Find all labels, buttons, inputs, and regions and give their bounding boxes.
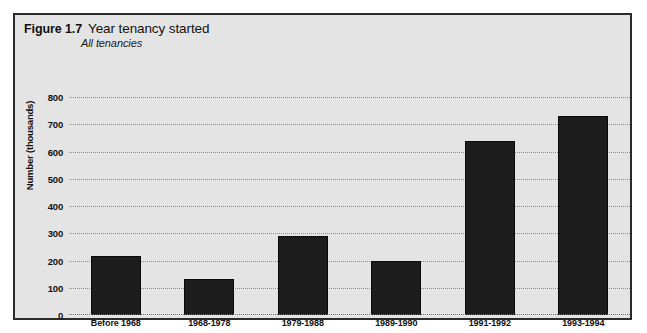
x-axis-tick-label: 1991-1992: [443, 318, 537, 328]
plot-area: 0100200300400500600700800: [69, 97, 630, 315]
bar: [465, 141, 515, 315]
y-axis-tick-label: 600: [48, 146, 63, 157]
x-axis-tick-label: 1979-1988: [256, 318, 350, 328]
y-axis-tick-label: 700: [48, 119, 63, 130]
x-axis-tick-label: Before 1968: [69, 318, 163, 328]
x-axis-tick-label: 1968-1978: [163, 318, 257, 328]
y-axis-tick-label: 500: [48, 173, 63, 184]
x-axis-tick-label: 1989-1990: [350, 318, 444, 328]
bar: [371, 261, 421, 316]
y-axis-title: Number (thousands): [24, 86, 35, 206]
chart-container: Number (thousands) 010020030040050060070…: [15, 15, 630, 318]
x-axis-ticks: Before 19681968-19781979-19881989-199019…: [69, 318, 630, 333]
y-axis-tick-label: 0: [58, 310, 63, 321]
bar: [184, 279, 234, 315]
y-axis-tick-label: 200: [48, 255, 63, 266]
figure-panel: Figure 1.7 Year tenancy started All tena…: [13, 13, 632, 320]
bar: [278, 236, 328, 315]
y-axis-tick-label: 400: [48, 201, 63, 212]
y-axis-tick-label: 800: [48, 92, 63, 103]
y-axis-tick-label: 300: [48, 228, 63, 239]
x-axis-tick-label: 1993-1994: [537, 318, 631, 328]
bars-layer: [69, 97, 630, 315]
x-axis-line: [69, 314, 630, 315]
y-axis-tick-label: 100: [48, 282, 63, 293]
bar: [558, 116, 608, 315]
bar: [91, 256, 141, 315]
